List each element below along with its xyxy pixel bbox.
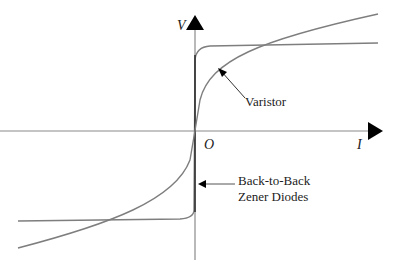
iv-diagram: [0, 0, 396, 266]
varistor-pointer: [221, 71, 245, 98]
v-axis-label: V: [177, 18, 186, 33]
zener-pointer-arrow-icon: [198, 180, 206, 188]
zener-label-line2: Zener Diodes: [238, 189, 308, 204]
varistor-label: Varistor: [245, 94, 286, 109]
zener-label-line1: Back-to-Back: [238, 173, 310, 188]
i-axis-label: I: [357, 137, 362, 152]
zener-curve: [18, 43, 378, 221]
i-axis-arrow-icon: [368, 122, 383, 140]
origin-label: O: [204, 137, 214, 152]
v-axis-arrow-icon: [186, 15, 204, 30]
